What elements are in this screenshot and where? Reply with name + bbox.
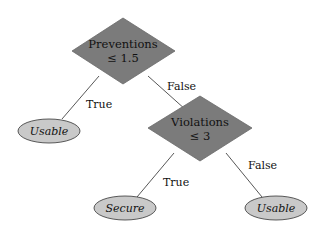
edge-violations-true <box>137 153 174 197</box>
decision-label-line2: ≤ 3 <box>190 129 211 143</box>
edge-label-violations-false: False <box>248 159 277 172</box>
decision-tree-diagram: True False True False Preventions ≤ 1.5 … <box>0 0 320 234</box>
leaf-node-usable-left: Usable <box>18 119 80 143</box>
decision-label-line1: Preventions <box>88 37 157 51</box>
decision-node-violations: Violations ≤ 3 <box>148 96 252 161</box>
leaf-label: Secure <box>105 202 145 215</box>
decision-label-line2: ≤ 1.5 <box>107 51 139 65</box>
decision-label-line1: Violations <box>170 115 229 129</box>
leaf-node-secure: Secure <box>94 196 156 220</box>
leaf-label: Usable <box>257 202 296 215</box>
leaf-label: Usable <box>30 125 69 138</box>
leaf-node-usable-right: Usable <box>245 196 307 220</box>
edge-label-root-true: True <box>86 98 112 111</box>
edge-label-violations-true: True <box>163 176 189 189</box>
decision-node-preventions: Preventions ≤ 1.5 <box>72 18 175 84</box>
edge-label-root-false: False <box>167 80 196 93</box>
